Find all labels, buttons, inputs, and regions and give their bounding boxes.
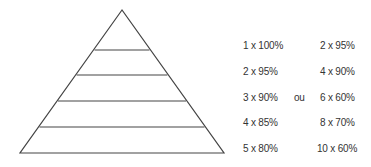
or-separator: ou [294,92,305,104]
scheme-left-row-2: 2 x 95% [243,66,278,78]
scheme-left-row-1: 1 x 100% [243,40,283,52]
scheme-right-row-4: 8 x 70% [320,117,355,129]
scheme-left-row-5: 5 x 80% [243,143,278,155]
scheme-right-row-5: 10 x 60% [317,143,357,155]
scheme-right-row-1: 2 x 95% [320,40,355,52]
pyramid-diagram [0,0,240,167]
scheme-left-row-4: 4 x 85% [243,117,278,129]
pyramid-outline [20,10,224,153]
scheme-right-row-2: 4 x 90% [320,66,355,78]
scheme-left-row-3: 3 x 90% [243,92,278,104]
scheme-right-row-3: 6 x 60% [320,92,355,104]
